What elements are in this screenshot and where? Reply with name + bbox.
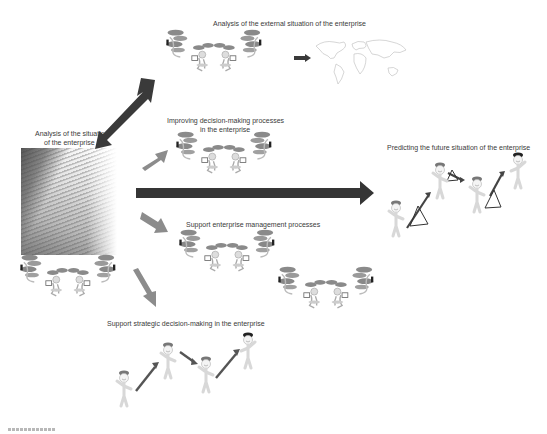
strategic-figures-icon [0, 0, 547, 434]
figure-caption-cut [8, 428, 56, 431]
